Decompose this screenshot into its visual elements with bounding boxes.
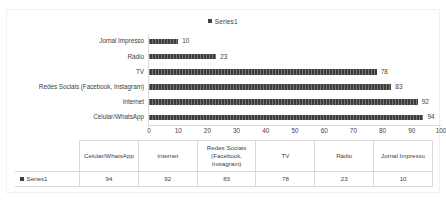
table-header-row: Celular/WhatsAppInternetRedes Sociais (F… [15,141,433,172]
bar-celular-whatsapp[interactable] [149,115,423,121]
x-tick-label-60: 60 [321,128,328,134]
bar-row-tv: 78 [149,69,441,75]
value-axis-ticks: 0102030405060708090100 [149,128,441,138]
bar-value-label-celular-whatsapp: 94 [427,114,434,120]
table-column-header-internet: Internet [138,141,197,172]
table-value-celular-whatsapp: 94 [80,172,139,187]
chart-legend[interactable]: Series1 [7,17,439,25]
chart-data-table: Celular/WhatsAppInternetRedes Sociais (F… [15,140,433,187]
table-value-jornal-impresso: 10 [374,172,433,187]
bar-value-label-radio: 23 [220,54,227,60]
table-column-header-jornal-impresso: Jornal Impresso [374,141,433,172]
table-column-header-redes-sociais: Redes Sociais (Facebook, Instagram) [197,141,256,172]
bar-redes-sociais[interactable] [149,84,391,90]
square-marker-icon [208,19,212,23]
table-series-name: Series1 [27,175,48,182]
table-corner-cell [15,141,80,172]
table-series-label-cell: Series1 [15,172,80,187]
chart-object[interactable]: Series1 Jornal Impresso Rádio TV Redes S… [6,9,440,193]
plot-area: Jornal Impresso Rádio TV Redes Sociais (… [7,34,441,139]
table-value-radio: 23 [315,172,374,187]
category-label-jornal-impresso: Jornal Impresso [7,38,148,44]
x-tick-label-30: 30 [233,128,240,134]
bar-value-label-tv: 78 [381,69,388,75]
table-column-header-tv: TV [256,141,315,172]
bars-region: 102378839294 [148,34,441,125]
legend-entry-label: Series1 [215,18,238,25]
table-value-tv: 78 [256,172,315,187]
bar-radio[interactable] [149,54,216,60]
x-tick-label-0: 0 [147,128,151,134]
bar-row-jornal-impresso: 10 [149,39,441,45]
bar-jornal-impresso[interactable] [149,39,178,45]
bar-row-radio: 23 [149,54,441,60]
category-label-radio: Rádio [7,54,148,60]
x-tick-label-100: 100 [436,128,446,134]
x-tick-label-80: 80 [379,128,386,134]
category-axis-labels: Jornal Impresso Rádio TV Redes Sociais (… [7,34,148,125]
bar-series-group: 102378839294 [149,34,441,125]
table-column-header-celular-whatsapp: Celular/WhatsApp [80,141,139,172]
bar-value-label-jornal-impresso: 10 [182,38,189,44]
x-tick-label-90: 90 [408,128,415,134]
bar-row-redes-sociais: 83 [149,84,441,90]
table-value-internet: 92 [138,172,197,187]
category-label-celular-whatsapp: Celular/WhatsApp [7,114,148,120]
table-column-header-radio: Rádio [315,141,374,172]
category-label-tv: TV [7,69,148,75]
x-tick-label-70: 70 [350,128,357,134]
bar-internet[interactable] [149,99,418,105]
category-label-redes-sociais: Redes Sociais (Facebook, Instagram) [7,84,148,90]
x-tick-label-20: 20 [204,128,211,134]
square-marker-icon [20,177,24,181]
bar-row-celular-whatsapp: 94 [149,115,441,121]
bar-row-internet: 92 [149,99,441,105]
value-axis: 0102030405060708090100 [148,125,441,139]
bar-value-label-internet: 92 [422,99,429,105]
table-row: Series1949283782310 [15,172,433,187]
category-label-internet: Internet [7,99,148,105]
x-tick-label-40: 40 [262,128,269,134]
value-axis-rule [148,125,441,126]
table-value-redes-sociais: 83 [197,172,256,187]
x-tick-label-50: 50 [291,128,298,134]
bar-tv[interactable] [149,69,377,75]
bar-value-label-redes-sociais: 83 [395,84,402,90]
x-tick-label-10: 10 [175,128,182,134]
